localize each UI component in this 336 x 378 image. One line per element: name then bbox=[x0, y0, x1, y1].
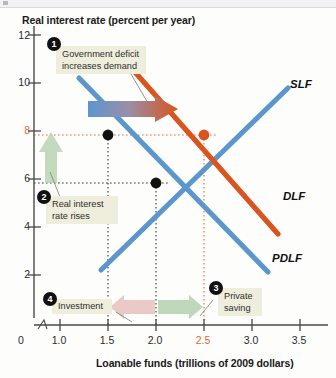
callout-badge-3: 3 bbox=[209, 281, 223, 295]
curve-label-pdlf: PDLF bbox=[272, 252, 302, 264]
callout-1-line-1: Government deficit bbox=[62, 49, 141, 61]
private-saving-increase-arrow bbox=[158, 295, 203, 319]
callout-3-line-1: Private bbox=[224, 291, 257, 303]
curve-label-dlf: DLF bbox=[283, 190, 305, 202]
guide-lines bbox=[34, 135, 216, 325]
callout-investment: Investment bbox=[52, 299, 112, 314]
callout-government-deficit: Government deficit increases demand bbox=[56, 46, 146, 74]
investment-decrease-arrow bbox=[110, 295, 155, 319]
point-private-equilibrium bbox=[103, 130, 114, 141]
callout-badge-2: 2 bbox=[37, 190, 51, 204]
callout-3-line-2: saving bbox=[224, 303, 257, 315]
callout-2-line-1: Real interest bbox=[52, 199, 113, 211]
chart-figure: Real interest rate (percent per year) Lo… bbox=[0, 0, 336, 378]
callout-1-line-2: increases demand bbox=[62, 61, 141, 73]
callout-badge-1: 1 bbox=[47, 37, 61, 51]
callout-2-line-2: rate rises bbox=[52, 211, 113, 223]
callout-real-interest-rate-rises: Real interest rate rises bbox=[46, 196, 118, 224]
point-new-equilibrium bbox=[199, 130, 210, 141]
plot-area bbox=[0, 0, 336, 378]
point-crossing-equilibrium bbox=[151, 178, 162, 189]
callout-4-line-1: Investment bbox=[58, 301, 107, 313]
callout-badge-4: 4 bbox=[43, 292, 57, 306]
callout-private-saving: Private saving bbox=[218, 288, 262, 316]
curve-label-slf: SLF bbox=[290, 78, 312, 90]
